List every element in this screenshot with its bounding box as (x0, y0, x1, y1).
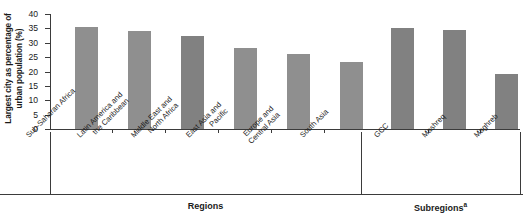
y-axis-title: Largest city as percentage of urban popu… (4, 4, 25, 134)
group-title-subregions-footnote: a (463, 201, 467, 208)
footer-divider (0, 194, 523, 195)
group-title-regions-label: Regions (188, 201, 224, 211)
bar-chart-figure: Largest city as percentage of urban popu… (0, 0, 523, 224)
y-tick-10: 10 (45, 100, 50, 101)
y-tick-label-5: 5 (33, 110, 38, 119)
y-tick-20: 20 (45, 72, 50, 73)
y-tick-label-15: 15 (28, 82, 38, 91)
x-tick-3 (218, 129, 219, 133)
bar-south-asia (340, 62, 363, 129)
group-separator-left (50, 132, 51, 194)
y-tick-25: 25 (45, 57, 50, 58)
x-tick-2 (165, 129, 166, 133)
group-separator-right (520, 132, 521, 194)
x-axis-line (50, 129, 520, 130)
y-tick-label-20: 20 (28, 67, 38, 76)
group-separator-middle (361, 132, 362, 194)
x-tick-5 (324, 129, 325, 133)
y-tick-label-25: 25 (28, 53, 38, 62)
bar-east-asia-and-pacific (234, 48, 257, 129)
bar-europe-and-central-asia (287, 54, 310, 129)
group-title-regions: Regions (50, 201, 361, 211)
y-tick-label-35: 35 (28, 24, 38, 33)
y-tick-label-10: 10 (28, 96, 38, 105)
x-tick-1 (112, 129, 113, 133)
y-tick-30: 30 (45, 43, 50, 44)
group-title-subregions: Subregionsa (361, 201, 520, 213)
y-tick-35: 35 (45, 28, 50, 29)
y-tick-label-40: 40 (28, 10, 38, 19)
bar-mashreq (443, 30, 466, 129)
y-tick-label-30: 30 (28, 38, 38, 47)
y-tick-0: 0 (45, 129, 50, 130)
y-tick-40: 40 (45, 14, 50, 15)
bar-gcc (391, 28, 414, 129)
y-tick-15: 15 (45, 86, 50, 87)
group-title-subregions-label: Subregions (414, 203, 464, 213)
x-tick-4 (271, 129, 272, 133)
bar-maghreb (495, 74, 518, 129)
